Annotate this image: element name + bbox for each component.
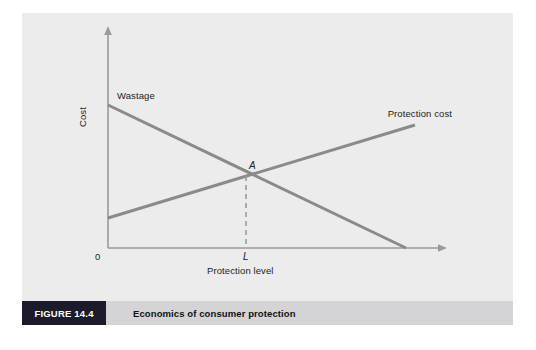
- point-a-label: A: [249, 160, 256, 171]
- origin-label: 0: [95, 251, 100, 262]
- figure-container: Wastage Protection cost A L 0 Protection…: [0, 0, 536, 350]
- y-axis: [104, 26, 112, 248]
- figure-number-tag: FIGURE 14.4: [22, 301, 106, 325]
- point-l-label: L: [243, 251, 249, 262]
- y-axis-title: Cost: [77, 107, 88, 127]
- x-axis: [108, 244, 447, 252]
- figure-caption-bar: FIGURE 14.4 Economics of consumer protec…: [22, 301, 513, 325]
- chart-plot-area: [22, 13, 513, 325]
- protection-cost-line: [108, 125, 415, 218]
- protection-cost-label: Protection cost: [372, 107, 452, 120]
- wastage-line: [108, 105, 406, 248]
- wastage-label: Wastage: [117, 90, 155, 101]
- figure-caption-text: Economics of consumer protection: [133, 301, 296, 325]
- x-axis-title: Protection level: [207, 265, 274, 276]
